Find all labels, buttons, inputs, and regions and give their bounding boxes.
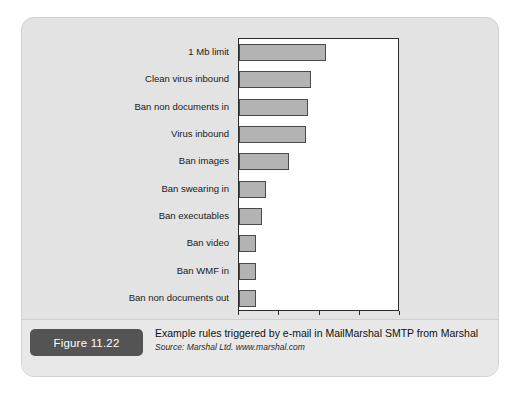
y-axis-label: Virus inbound [171,128,229,139]
bar-9 [239,263,256,280]
bar-fill [239,126,306,143]
y-axis-label: Ban video [187,237,229,248]
bar-fill [239,263,256,280]
bar-5 [239,153,289,170]
y-axis-label: Ban swearing in [161,183,229,194]
caption-source: Source: Marshal Ltd. www.marshal.com [155,341,490,353]
caption-text-block: Example rules triggered by e-mail in Mai… [155,326,490,353]
bar-4 [239,126,306,143]
y-axis-label: 1 Mb limit [188,46,229,57]
x-tick-mark [399,311,400,315]
y-axis-label: Ban images [179,155,229,166]
bar-fill [239,153,289,170]
x-tick-mark [359,311,360,315]
y-axis-label: Ban non documents in [134,101,229,112]
x-tick-mark [319,311,320,315]
bars-layer [239,39,398,310]
plot-area [238,38,399,311]
caption-title: Example rules triggered by e-mail in Mai… [155,326,490,340]
figure-panel: 1 Mb limitClean virus inboundBan non doc… [21,17,499,377]
y-axis-category-labels: 1 Mb limitClean virus inboundBan non doc… [82,38,234,311]
bar-fill [239,99,308,116]
bar-fill [239,181,266,198]
bar-10 [239,290,256,307]
bar-7 [239,208,262,225]
bar-fill [239,290,256,307]
y-axis-label: Clean virus inbound [145,73,229,84]
bar-fill [239,71,311,88]
y-axis-label: Ban WMF in [177,265,229,276]
bar-fill [239,235,256,252]
x-tick-mark [278,311,279,315]
y-axis-label: Ban executables [159,210,229,221]
bar-fill [239,208,262,225]
bar-2 [239,71,311,88]
caption-bar: Figure 11.22 Example rules triggered by … [22,319,498,376]
bar-6 [239,181,266,198]
bar-fill [239,44,326,61]
bar-1 [239,44,326,61]
figure-number-badge: Figure 11.22 [30,329,143,356]
y-axis-label: Ban non documents out [129,292,229,303]
bar-chart: 1 Mb limitClean virus inboundBan non doc… [22,18,498,311]
bar-8 [239,235,256,252]
bar-3 [239,99,308,116]
x-tick-mark [238,311,239,315]
